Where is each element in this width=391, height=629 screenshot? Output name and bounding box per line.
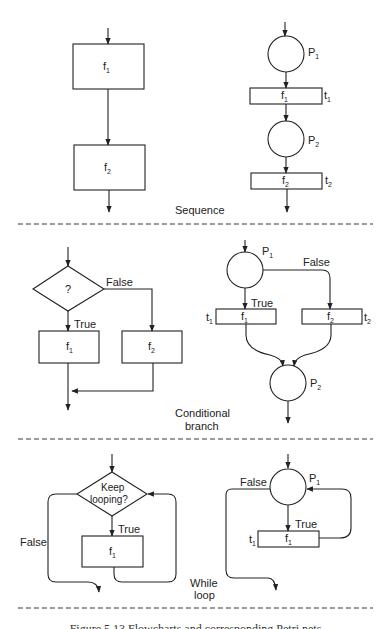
false-label: False xyxy=(303,256,330,268)
false-label: False xyxy=(106,276,133,288)
sequence-flowchart xyxy=(73,28,145,212)
decision-label-keep: Keep xyxy=(101,482,125,493)
true-label: True xyxy=(74,318,96,330)
flowchart-petri-diagram: f1 f2 P1 f1 t1 P2 f2 t2 Sequence ? False… xyxy=(0,0,391,629)
section-label-branch: branch xyxy=(185,420,219,432)
true-label: True xyxy=(295,518,317,530)
place-label-p2: P2 xyxy=(310,377,321,391)
transition-func-f2: f2 xyxy=(282,174,289,188)
transition-label-t1: t1 xyxy=(249,533,256,547)
false-label: False xyxy=(20,536,47,548)
true-label: True xyxy=(118,523,140,535)
transition-label-t2: t2 xyxy=(364,311,371,325)
false-label: False xyxy=(240,476,267,488)
true-label: True xyxy=(251,297,273,309)
box-label-f2: f2 xyxy=(148,340,155,354)
transition-func-f1: f1 xyxy=(281,89,288,103)
transition-func-f1: f1 xyxy=(241,310,248,324)
place-label-p1: P1 xyxy=(308,46,319,60)
transition-label-t1: t1 xyxy=(324,89,331,103)
decision-label-looping: looping? xyxy=(90,494,128,505)
box-label-f1: f1 xyxy=(103,60,110,74)
transition-func-f1: f1 xyxy=(285,532,292,546)
transition-label-t2: t2 xyxy=(325,174,332,188)
while-petri-net xyxy=(226,454,351,590)
section-label-conditional: Conditional xyxy=(175,407,230,419)
transition-label-t1: t1 xyxy=(206,311,213,325)
place-p2 xyxy=(268,121,304,157)
while-flowchart xyxy=(48,454,176,592)
decision-label: ? xyxy=(65,283,71,295)
place-p1 xyxy=(227,252,263,288)
box-label-f2: f2 xyxy=(104,161,111,175)
place-p2 xyxy=(270,365,306,401)
place-label-p2: P2 xyxy=(308,134,319,148)
place-label-p1: P1 xyxy=(309,472,320,486)
figure-caption: Figure 5.13 Flowcharts and corresponding… xyxy=(0,620,391,629)
section-label-while: While xyxy=(190,577,218,589)
section-label-loop: loop xyxy=(194,589,215,601)
conditional-flowchart xyxy=(33,247,182,410)
section-label-sequence: Sequence xyxy=(175,204,225,216)
place-label-p1: P1 xyxy=(262,245,273,259)
box-label-f1: f1 xyxy=(66,340,73,354)
transition-func-f2: f2 xyxy=(327,310,334,324)
place-p1 xyxy=(268,36,304,72)
conditional-petri-net xyxy=(216,240,362,423)
box-label-f1: f1 xyxy=(109,545,116,559)
place-p1 xyxy=(270,469,306,505)
